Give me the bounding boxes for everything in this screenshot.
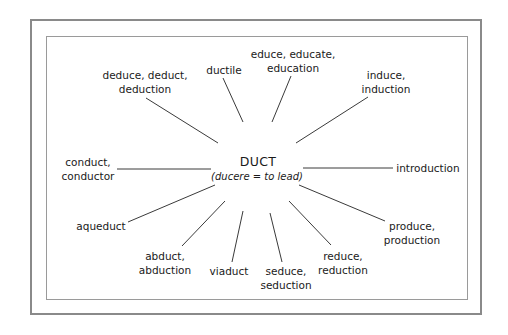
label-seduce: seduce, seduction [260, 264, 311, 292]
connector-educe [272, 76, 291, 122]
label-introduction: introduction [396, 161, 459, 175]
connector-induce [296, 97, 368, 143]
label-abduct: abduct, abduction [139, 249, 191, 277]
label-ductile: ductile [206, 63, 242, 77]
label-aqueduct: aqueduct [76, 219, 125, 233]
root-word: DUCT [240, 154, 276, 169]
label-deduce: deduce, deduct, deduction [102, 68, 187, 96]
label-reduce: reduce, reduction [318, 249, 368, 277]
connector-produce [299, 185, 385, 221]
label-induce: induce, induction [362, 68, 411, 96]
connector-seduce [270, 213, 282, 262]
connector-reduce [289, 201, 331, 245]
connector-ductile [223, 78, 243, 122]
root-meaning: (ducere = to lead) [211, 171, 303, 182]
label-viaduct: viaduct [210, 264, 249, 278]
connector-aqueduct [128, 185, 215, 222]
connector-deduce [146, 98, 218, 143]
label-conduct: conduct, conductor [62, 155, 115, 183]
label-produce: produce, production [384, 219, 440, 247]
connector-viaduct [232, 211, 243, 262]
label-educe: educe, educate, education [251, 47, 336, 75]
connector-abduct [182, 201, 225, 246]
